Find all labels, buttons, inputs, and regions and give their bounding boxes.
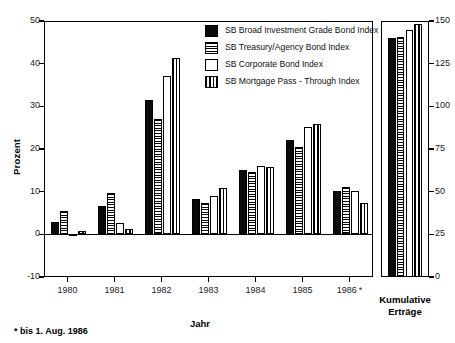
left-tickmark bbox=[39, 106, 44, 107]
bar bbox=[257, 166, 265, 234]
footnote-text: bis 1. Aug. 1986 bbox=[20, 326, 88, 336]
x-tickmark bbox=[114, 277, 115, 282]
bar bbox=[172, 58, 180, 235]
x-label-text: 1980 bbox=[57, 285, 77, 295]
bar bbox=[78, 231, 86, 234]
footnote-marker: * bbox=[14, 326, 18, 336]
cumulative-bar bbox=[397, 37, 405, 277]
x-label: 1981 bbox=[91, 286, 139, 295]
left-tickmark bbox=[39, 276, 44, 277]
right-tick-label: 75 bbox=[435, 144, 445, 153]
bar bbox=[333, 191, 341, 235]
bar bbox=[154, 119, 162, 234]
y-axis-title: Prozent bbox=[11, 139, 22, 175]
x-label-text: 1981 bbox=[104, 285, 124, 295]
legend: SB Broad Investment Grade Bond IndexSB T… bbox=[205, 22, 378, 90]
left-tick-label: -10 bbox=[8, 272, 40, 281]
x-tickmark bbox=[255, 277, 256, 282]
right-tickmark bbox=[429, 234, 434, 235]
horizontal-lines-swatch bbox=[205, 42, 218, 54]
cumulative-bar bbox=[406, 30, 414, 277]
right-tick-label: 150 bbox=[435, 16, 450, 25]
left-tickmark bbox=[39, 20, 44, 21]
bar bbox=[239, 170, 247, 234]
right-tickmark bbox=[429, 20, 434, 21]
bar bbox=[286, 140, 294, 235]
legend-item: SB Mortgage Pass - Through Index bbox=[205, 73, 378, 90]
bar bbox=[125, 229, 133, 235]
x-label-text: 1983 bbox=[198, 285, 218, 295]
right-tick-label: 0 bbox=[435, 272, 440, 281]
cumulative-label-line1: Kumulative bbox=[378, 294, 432, 306]
bar bbox=[210, 196, 218, 234]
bar bbox=[201, 203, 209, 235]
bar bbox=[51, 222, 59, 234]
cumulative-panel-label: Kumulative Erträge bbox=[378, 294, 432, 317]
left-tick-label: 50 bbox=[8, 16, 40, 25]
bar bbox=[342, 187, 350, 235]
bar bbox=[69, 234, 77, 236]
left-tick-label: 0 bbox=[8, 229, 40, 238]
right-tickmark bbox=[429, 276, 434, 277]
bar bbox=[313, 124, 321, 234]
x-label: 1980 bbox=[44, 286, 92, 295]
left-tickmark bbox=[39, 148, 44, 149]
x-tickmark bbox=[161, 277, 162, 282]
bar bbox=[248, 172, 256, 234]
bar bbox=[145, 100, 153, 234]
bar bbox=[266, 167, 274, 234]
x-axis-title: Jahr bbox=[190, 318, 210, 329]
left-tick-label: 40 bbox=[8, 59, 40, 68]
right-tickmark bbox=[429, 106, 434, 107]
legend-label: SB Corporate Bond Index bbox=[225, 60, 323, 69]
cumulative-bar bbox=[388, 38, 396, 277]
chart-figure: 50403020100-10 Prozent 1501251007550250 … bbox=[0, 0, 455, 343]
right-tickmark bbox=[429, 191, 434, 192]
x-label: 1984 bbox=[232, 286, 280, 295]
left-tickmark bbox=[39, 191, 44, 192]
open-swatch bbox=[205, 59, 218, 71]
legend-label: SB Mortgage Pass - Through Index bbox=[225, 77, 360, 86]
bar bbox=[351, 191, 359, 235]
x-tickmark bbox=[302, 277, 303, 282]
bar bbox=[304, 127, 312, 235]
solid-swatch bbox=[205, 25, 218, 37]
x-label: 1985 bbox=[279, 286, 327, 295]
left-tick-label: 30 bbox=[8, 101, 40, 110]
bar bbox=[163, 76, 171, 234]
cumulative-label-line2: Erträge bbox=[378, 306, 432, 318]
x-tickmark bbox=[349, 277, 350, 282]
x-label: 1983 bbox=[185, 286, 233, 295]
right-tickmark bbox=[429, 63, 434, 64]
x-label-text: 1982 bbox=[151, 285, 171, 295]
vertical-lines-swatch bbox=[205, 76, 218, 88]
bar bbox=[98, 206, 106, 234]
legend-item: SB Treasury/Agency Bond Index bbox=[205, 39, 378, 56]
x-label-text: 1985 bbox=[292, 285, 312, 295]
x-label: 1986* bbox=[326, 286, 374, 295]
bar bbox=[116, 223, 124, 235]
right-tick-label: 50 bbox=[435, 187, 445, 196]
bar bbox=[192, 199, 200, 234]
x-label-asterisk: * bbox=[359, 285, 363, 295]
right-tickmark bbox=[429, 148, 434, 149]
bar bbox=[360, 203, 368, 234]
left-tick-label: 10 bbox=[8, 187, 40, 196]
legend-item: SB Broad Investment Grade Bond Index bbox=[205, 22, 378, 39]
x-tickmark bbox=[67, 277, 68, 282]
bar bbox=[107, 193, 115, 235]
legend-label: SB Treasury/Agency Bond Index bbox=[225, 43, 349, 52]
cumulative-bar bbox=[414, 24, 422, 277]
right-tick-label: 100 bbox=[435, 101, 450, 110]
right-tick-label: 125 bbox=[435, 59, 450, 68]
x-label-text: 1984 bbox=[245, 285, 265, 295]
x-tickmark bbox=[208, 277, 209, 282]
footnote: * bis 1. Aug. 1986 bbox=[14, 326, 88, 336]
right-tick-label: 25 bbox=[435, 229, 445, 238]
legend-label: SB Broad Investment Grade Bond Index bbox=[225, 26, 378, 35]
bar bbox=[60, 211, 68, 234]
bar bbox=[219, 188, 227, 234]
left-tickmark bbox=[39, 63, 44, 64]
x-label-text: 1986 bbox=[337, 285, 357, 295]
bar bbox=[295, 147, 303, 234]
